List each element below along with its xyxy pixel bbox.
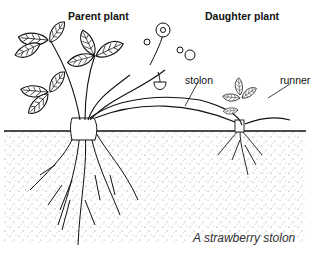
figure-caption: A strawberry stolon	[193, 231, 295, 245]
soil	[4, 131, 306, 243]
daughter-plant-label: Daughter plant	[205, 10, 279, 22]
parent-plant-label: Parent plant	[68, 10, 129, 22]
daughter-leaves	[222, 77, 258, 115]
parent-leaves	[14, 19, 125, 116]
stolon-label: stolon	[185, 74, 213, 86]
stolon-line	[95, 106, 290, 124]
runner-label: runner	[280, 74, 310, 86]
parent-stems	[50, 40, 242, 125]
strawberry-stolon-illustration	[0, 0, 330, 258]
